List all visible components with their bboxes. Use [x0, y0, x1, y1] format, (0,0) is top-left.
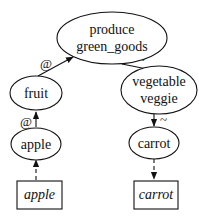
node-apple[interactable]: apple [11, 128, 61, 160]
edge-label-apple-fruit: @ [20, 114, 32, 129]
node-fruit-label: fruit [24, 86, 48, 101]
node-produce-line1: produce [89, 22, 134, 37]
hierarchy-diagram: @ @ ~ ~ produce green_goods fruit vegeta… [0, 0, 199, 219]
node-apple-word[interactable]: apple [17, 181, 62, 209]
edge-fruit-to-produce: @ [38, 56, 73, 76]
edge-apple-to-fruit: @ [20, 112, 36, 129]
node-produce[interactable]: produce green_goods [57, 12, 167, 64]
node-apple-label: apple [21, 137, 51, 152]
node-carrot-label: carrot [138, 136, 171, 151]
node-carrot[interactable]: carrot [129, 127, 179, 159]
node-apple-word-label: apple [24, 187, 55, 202]
node-fruit[interactable]: fruit [10, 76, 62, 110]
node-vegetable-line1: vegetable [132, 74, 186, 89]
edge-label-fruit-produce: @ [40, 56, 52, 71]
node-vegetable[interactable]: vegetable veggie [121, 66, 197, 114]
node-carrot-word[interactable]: carrot [134, 181, 178, 209]
node-produce-line2: green_goods [76, 39, 148, 54]
node-carrot-word-label: carrot [139, 187, 175, 202]
node-vegetable-line2: veggie [140, 91, 177, 106]
